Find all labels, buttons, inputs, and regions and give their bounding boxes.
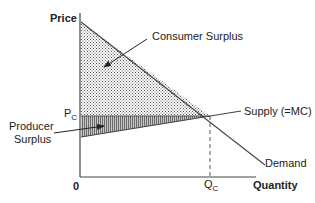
x-axis-label: Quantity (253, 179, 298, 191)
price-equilibrium-label: PC (64, 107, 77, 122)
quantity-equilibrium-sub: C (213, 184, 219, 193)
origin-label: 0 (73, 180, 79, 192)
y-axis-label: Price (50, 12, 77, 24)
quantity-equilibrium-label: QC (204, 178, 219, 193)
producer-surplus-label-line1: Producer (9, 120, 54, 132)
supply-label: Supply (=MC) (244, 105, 312, 117)
price-equilibrium-sub: C (71, 113, 77, 122)
demand-label: Demand (265, 157, 307, 169)
surplus-diagram: Price Consumer Surplus PC Producer Surpl… (0, 0, 315, 203)
price-equilibrium-main: P (64, 107, 71, 119)
consumer-surplus-label: Consumer Surplus (152, 30, 244, 42)
producer-surplus-label-line2: Surplus (14, 133, 52, 145)
